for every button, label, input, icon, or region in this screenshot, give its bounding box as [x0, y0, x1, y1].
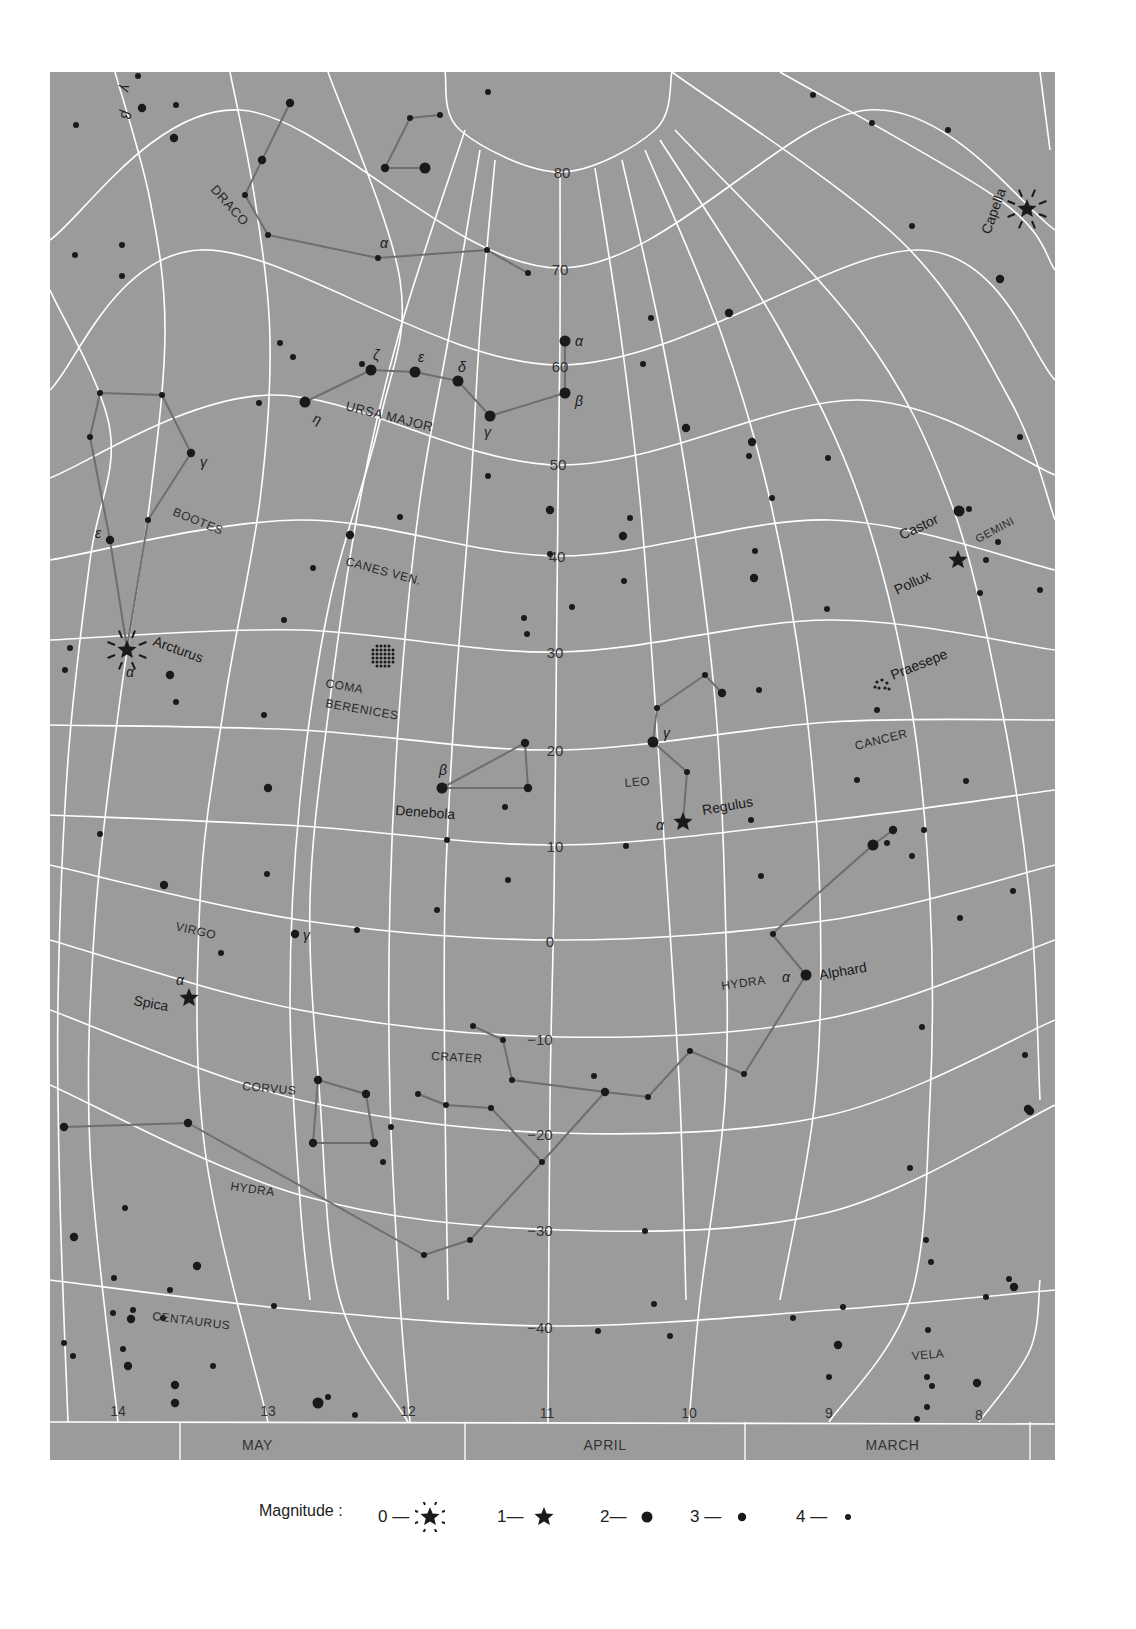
greek-letter-label: γ [200, 454, 208, 470]
star-mag-3 [193, 1262, 201, 1270]
right-ascension-label: 14 [110, 1403, 126, 1419]
star-mag-4 [769, 495, 775, 501]
star-mag-4 [945, 127, 951, 133]
star-mag-4 [397, 514, 403, 520]
greek-letter-label: α [656, 817, 665, 833]
star-mag-3 [748, 438, 756, 446]
star-mag-4 [173, 699, 179, 705]
star-mag-2 [366, 365, 377, 376]
star-mag-4 [210, 1363, 216, 1369]
greek-letter-label: ε [418, 349, 425, 365]
star-mag-2 [560, 336, 571, 347]
star-mag-4 [752, 548, 758, 554]
star-mag-3 [314, 1076, 322, 1084]
star-mag-3 [171, 1381, 179, 1389]
right-ascension-label: 9 [825, 1405, 833, 1421]
star-mag-4 [909, 223, 915, 229]
star-mag-3 [309, 1139, 317, 1147]
star-mag-4 [62, 667, 68, 673]
star-mag-4 [595, 1328, 601, 1334]
star-mag-4 [388, 1124, 394, 1130]
star-mag-4 [539, 1159, 545, 1165]
star-mag-3 [171, 1399, 179, 1407]
star-mag-4 [173, 102, 179, 108]
star-mag-3 [1010, 1283, 1018, 1291]
star-mag-3 [124, 1362, 132, 1370]
star-mag-4 [623, 843, 629, 849]
star-mag-4 [921, 827, 927, 833]
star-mag-4 [380, 1159, 386, 1165]
star-mag-4 [957, 915, 963, 921]
star-mag-4 [667, 1333, 673, 1339]
legend-value: 2— [600, 1507, 626, 1527]
star-mag-4 [1037, 587, 1043, 593]
dot-medium-icon [727, 1502, 757, 1532]
legend-item-mag: 1— [497, 1502, 559, 1532]
star-mag-4 [924, 1374, 930, 1380]
star-mag-4 [642, 1228, 648, 1234]
star-mag-2 [648, 737, 659, 748]
star-mag-4 [929, 1383, 935, 1389]
star-mag-4 [352, 1412, 358, 1418]
star-mag-4 [1022, 1052, 1028, 1058]
declination-label: 50 [550, 456, 567, 473]
declination-label: 70 [552, 261, 569, 278]
star-mag-4 [569, 604, 575, 610]
legend-value: 1— [497, 1507, 523, 1527]
star-mag-4 [145, 517, 151, 523]
star-mag-4 [524, 631, 530, 637]
star-mag-4 [741, 1071, 747, 1077]
constellation-label: LEO [624, 774, 651, 790]
star-mag-3 [546, 506, 554, 514]
star-mag-4 [325, 1394, 331, 1400]
star-mag-4 [265, 232, 271, 238]
star-mag-4 [415, 1091, 421, 1097]
star-mag-2 [485, 411, 496, 422]
star-mag-4 [770, 931, 776, 937]
star-mag-4 [70, 1353, 76, 1359]
star-mag-3 [381, 164, 389, 172]
star-mag-4 [854, 777, 860, 783]
greek-letter-label: δ [458, 359, 466, 375]
legend-value: 0 — [378, 1507, 409, 1527]
star-mag-4 [434, 907, 440, 913]
star-mag-4 [521, 615, 527, 621]
star-mag-4 [111, 1275, 117, 1281]
star-mag-3 [889, 826, 897, 834]
star-mag-4 [502, 804, 508, 810]
star-mag-4 [963, 778, 969, 784]
star-mag-4 [67, 645, 73, 651]
star-mag-4 [746, 453, 752, 459]
star-mag-4 [874, 707, 880, 713]
star-mag-4 [261, 712, 267, 718]
star-mag-4 [983, 557, 989, 563]
star-mag-4 [310, 565, 316, 571]
star-mag-4 [242, 192, 248, 198]
star-mag-4 [407, 115, 413, 121]
greek-letter-label: α [782, 969, 791, 985]
legend-value: 4 — [796, 1507, 827, 1527]
star-mag-4 [256, 400, 262, 406]
star-mag-4 [840, 1304, 846, 1310]
star-mag-4 [277, 340, 283, 346]
star-mag-3 [106, 536, 114, 544]
star-mag-4 [925, 1327, 931, 1333]
star-mag-4 [1010, 888, 1016, 894]
star-mag-4 [87, 434, 93, 440]
star-mag-4 [488, 1105, 494, 1111]
declination-label: 60 [552, 358, 569, 375]
star-mag-4 [977, 590, 983, 596]
burst-star-icon [415, 1502, 445, 1532]
greek-letter-label: β [574, 393, 583, 409]
star-mag-4 [485, 89, 491, 95]
right-ascension-label: 13 [260, 1403, 276, 1419]
star-mag-4 [702, 672, 708, 678]
greek-letter-label: ε [95, 525, 102, 541]
declination-label: 80 [554, 164, 571, 181]
star-mag-4 [61, 1340, 67, 1346]
star-mag-3 [286, 99, 294, 107]
star-mag-4 [443, 1102, 449, 1108]
star-mag-2 [410, 367, 421, 378]
star-mag-4 [919, 1024, 925, 1030]
star-mag-4 [756, 687, 762, 693]
